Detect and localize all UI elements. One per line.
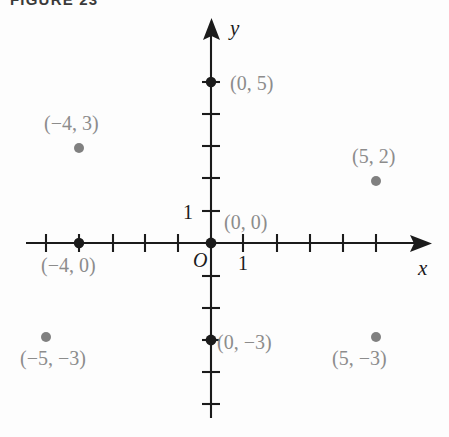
point-0-neg3 (206, 335, 217, 346)
point-0-0 (206, 238, 217, 249)
coordinate-plane-figure: FIGURE 23 (0, 0, 449, 437)
point-label-0-0: (0, 0) (224, 212, 267, 232)
origin-label: O (193, 250, 207, 270)
point-0-5 (206, 77, 216, 87)
x-unit-scale-label: 1 (238, 253, 248, 273)
point-label-0-5: (0, 5) (230, 73, 273, 93)
x-axis-label: x (418, 258, 427, 279)
y-unit-scale-label: 1 (183, 202, 193, 222)
point-label-5-neg3: (5, −3) (332, 348, 387, 368)
point-label-neg5-neg3: (−5, −3) (20, 348, 86, 368)
point-label-0-neg3: (0, −3) (217, 332, 272, 352)
point-neg4-0 (74, 238, 84, 248)
point-label-neg4-3: (−4, 3) (44, 113, 99, 133)
point-5-neg3 (371, 332, 381, 342)
point-label-neg4-0: (−4, 0) (41, 255, 96, 275)
point-5-2 (371, 176, 381, 186)
point-label-5-2: (5, 2) (352, 146, 395, 166)
point-neg4-3 (74, 143, 84, 153)
point-neg5-neg3 (41, 332, 51, 342)
y-axis-label: y (230, 18, 239, 39)
